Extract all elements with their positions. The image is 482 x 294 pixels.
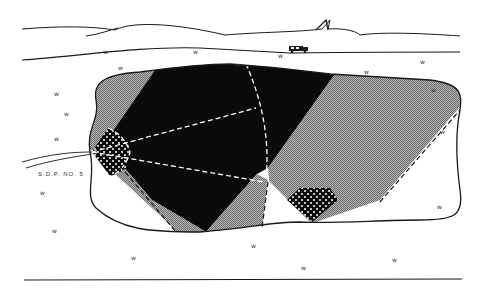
grass-icon: ᴡ (103, 48, 108, 55)
horizon-hills (22, 20, 460, 36)
grass-icon: ᴡ (52, 227, 57, 234)
road (22, 48, 460, 60)
grass-icon: ᴡ (364, 68, 369, 75)
grass-icon: ᴡ (64, 110, 69, 117)
grass-icon: ᴡ (235, 61, 240, 68)
grass-icon: ᴡ (278, 52, 283, 59)
grass-icon: ᴡ (131, 254, 136, 261)
grass-icon: ᴡ (40, 189, 45, 196)
grass-icon: ᴡ (431, 86, 436, 93)
ground-line (24, 279, 462, 280)
grass-icon: ᴡ (54, 90, 59, 97)
mine-diagram: S.D.P. NO. 5 ᴡ ᴡ ᴡ ᴡ ᴡ ᴡ ᴡ ᴡ ᴡ ᴡ ᴡ ᴡ ᴡ ᴡ… (0, 0, 482, 294)
pipe-label: S.D.P. NO. 5 (38, 171, 84, 177)
pipe-sdp-no5 (22, 152, 92, 168)
grass-icon: ᴡ (54, 135, 59, 142)
grass-icon: ᴡ (193, 48, 198, 55)
grass-icon: ᴡ (392, 256, 397, 263)
grass-icon: ᴡ (301, 264, 306, 271)
truck-icon (289, 46, 308, 53)
grass-icon: ᴡ (251, 242, 256, 249)
grass-icon: ᴡ (420, 58, 425, 65)
grass-icon: ᴡ (440, 128, 445, 135)
grass-icon: ᴡ (118, 64, 123, 71)
grass-icon: ᴡ (437, 203, 442, 210)
